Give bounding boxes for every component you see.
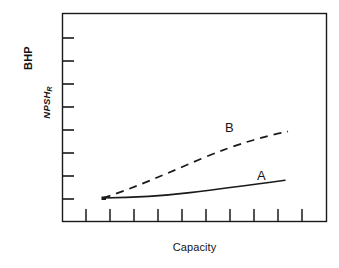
curve-label-a: A	[257, 168, 266, 183]
curve-b-line	[103, 132, 288, 199]
y-axis-label-npsh: NPSHR	[41, 72, 54, 132]
x-axis-label-capacity: Capacity	[62, 241, 327, 253]
x-axis-ticks	[86, 209, 302, 222]
y-axis-label-bhp: BHP	[22, 28, 34, 88]
npsh-base-text: NPSH	[41, 91, 52, 118]
y-axis-ticks	[63, 38, 75, 199]
chart-figure: BHP NPSHR Capacity B A	[0, 0, 339, 268]
npsh-subscript-r: R	[46, 86, 53, 91]
curve-label-b: B	[225, 120, 234, 135]
plot-area	[0, 0, 339, 268]
plot-frame	[63, 14, 327, 222]
